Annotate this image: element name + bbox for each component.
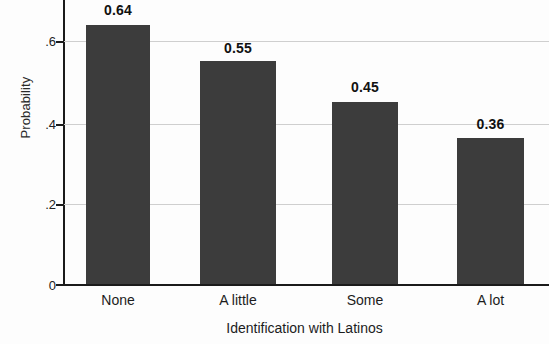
plot-area [63,0,549,286]
y-tick-mark-0.6 [56,41,64,43]
x-tick-label-a-little: A little [190,292,286,308]
y-tick-mark-0 [56,284,64,286]
y-tick-mark-0.4 [56,124,64,126]
x-axis-title: Identification with Latinos [226,320,382,336]
y-tick-label-0.4: .4 [26,117,56,132]
y-tick-label-0: 0 [26,278,56,293]
bar-chart: Probability .6 .4 .2 0 0.64 0.55 0.45 0.… [0,0,549,344]
bar-value-a-little: 0.55 [200,40,276,56]
bar-value-none: 0.64 [86,2,150,18]
bar-value-some: 0.45 [332,79,398,95]
x-tick-label-some: Some [322,292,408,308]
bar-some[interactable] [332,102,398,284]
x-tick-label-a-lot: A lot [447,292,534,308]
y-tick-label-0.2: .2 [26,197,56,212]
x-tick-label-none: None [76,292,160,308]
y-axis-title: Probability [18,43,33,173]
bar-a-little[interactable] [200,61,276,284]
y-tick-label-0.6: .6 [26,34,56,49]
y-tick-mark-0.2 [56,204,64,206]
bar-value-a-lot: 0.36 [457,116,524,132]
x-axis-line [63,284,549,286]
bar-none[interactable] [86,25,150,284]
bar-a-lot[interactable] [457,138,524,284]
x-axis-title-wrap: Identification with Latinos [0,320,549,336]
